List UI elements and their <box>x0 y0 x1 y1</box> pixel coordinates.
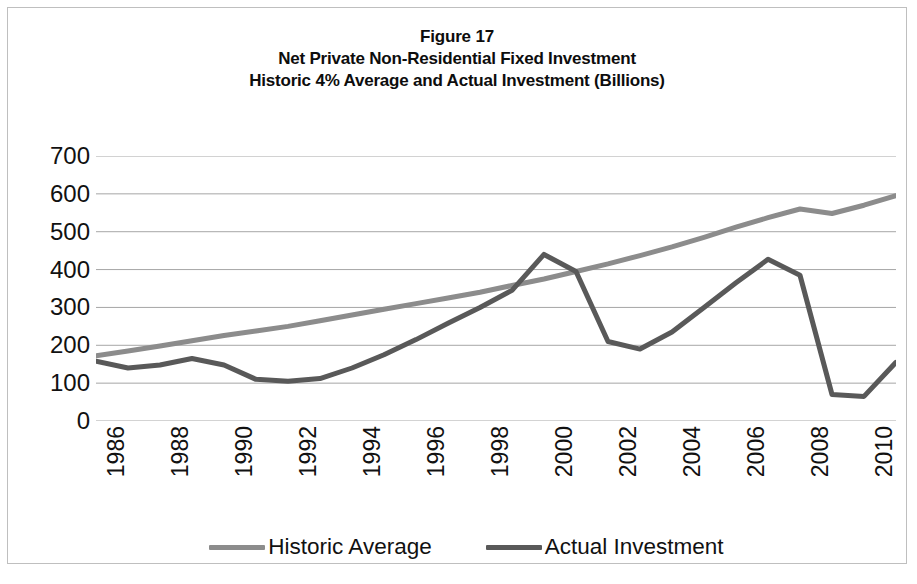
y-axis-tick-label: 200 <box>16 333 90 357</box>
x-axis-tick-label: 1996 <box>425 426 448 477</box>
x-axis-tick-label: 2004 <box>681 426 704 477</box>
series-line-historic-average <box>96 196 896 356</box>
legend-line-swatch <box>209 545 265 550</box>
data-series-layer <box>96 196 896 397</box>
x-axis-tick-label: 2000 <box>553 426 576 477</box>
y-axis-tick-label: 600 <box>16 182 90 206</box>
chart-frame: Figure 17 Net Private Non-Residential Fi… <box>7 7 907 564</box>
y-axis-tick-label: 300 <box>16 295 90 319</box>
plot-area <box>96 156 896 421</box>
legend-item[interactable]: Historic Average <box>209 536 431 559</box>
y-axis-tick-label: 400 <box>16 258 90 282</box>
x-axis-tick-label: 1988 <box>169 426 192 477</box>
chart-title-block: Figure 17 Net Private Non-Residential Fi… <box>8 26 906 92</box>
x-axis-tick-label: 1998 <box>489 426 512 477</box>
x-axis-tick-label: 1992 <box>297 426 320 477</box>
figure-number: Figure 17 <box>8 26 906 48</box>
x-axis-tick-label: 2006 <box>745 426 768 477</box>
x-axis-labels: 1986198819901992199419961998200020022004… <box>96 426 906 524</box>
legend-item[interactable]: Actual Investment <box>486 536 724 559</box>
x-axis-tick-label: 2008 <box>809 426 832 477</box>
x-axis-tick-label: 1990 <box>233 426 256 477</box>
y-axis-labels: 7006005004003002001000 <box>16 138 90 438</box>
chart-subtitle: Historic 4% Average and Actual Investmen… <box>8 70 906 92</box>
x-axis-tick-label: 1994 <box>361 426 384 477</box>
x-axis-tick-label: 2002 <box>617 426 640 477</box>
x-axis-tick-label: 2010 <box>873 426 896 477</box>
legend-line-swatch <box>486 545 542 550</box>
y-axis-tick-label: 500 <box>16 220 90 244</box>
y-axis-tick-label: 700 <box>16 144 90 168</box>
chart-legend: Historic AverageActual Investment <box>8 527 917 567</box>
y-axis-tick-label: 100 <box>16 371 90 395</box>
series-line-actual-investment <box>96 254 896 396</box>
chart-title: Net Private Non-Residential Fixed Invest… <box>8 48 906 70</box>
y-axis-tick-label: 0 <box>16 409 90 433</box>
legend-label: Historic Average <box>268 536 431 559</box>
line-chart-svg <box>96 156 896 421</box>
x-axis-tick-label: 1986 <box>105 426 128 477</box>
legend-label: Actual Investment <box>545 536 724 559</box>
